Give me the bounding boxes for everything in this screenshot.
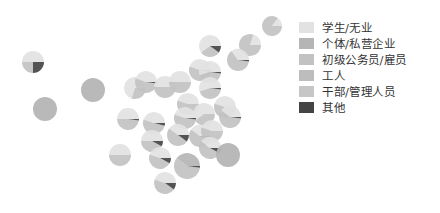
- pie-marker: [135, 71, 157, 93]
- legend-item-other: 其他: [299, 99, 407, 115]
- legend-swatch-manager: [299, 86, 314, 97]
- pie-marker: [167, 124, 189, 146]
- pie-marker: [109, 144, 131, 166]
- legend: 学生/无业 个体/私营企业 初级公务员/雇员 工人 干部/管理人员 其他: [299, 19, 407, 115]
- pie-marker: [219, 106, 241, 128]
- pie-marker: [117, 108, 139, 130]
- legend-item-student: 学生/无业: [299, 19, 407, 35]
- legend-label-other: 其他: [322, 99, 345, 115]
- legend-label-junior-clerk: 初级公务员/雇员: [322, 51, 407, 67]
- pie-marker: [227, 49, 249, 71]
- pie-map: [0, 0, 290, 213]
- pie-marker: [81, 78, 105, 102]
- pie-marker: [199, 35, 221, 57]
- legend-label-worker: 工人: [322, 67, 345, 83]
- legend-swatch-private-business: [299, 38, 314, 49]
- legend-item-worker: 工人: [299, 67, 407, 83]
- legend-item-junior-clerk: 初级公务员/雇员: [299, 51, 407, 67]
- legend-swatch-student: [299, 22, 314, 33]
- legend-swatch-worker: [299, 70, 314, 81]
- pie-marker: [154, 172, 176, 194]
- legend-label-private-business: 个体/私营企业: [322, 35, 395, 51]
- pie-marker: [199, 77, 221, 99]
- legend-swatch-junior-clerk: [299, 54, 314, 65]
- pie-marker: [22, 51, 44, 73]
- pie-marker: [262, 16, 282, 36]
- legend-label-manager: 干部/管理人员: [322, 83, 395, 99]
- pie-marker: [149, 147, 171, 169]
- pie-marker: [33, 97, 57, 121]
- legend-swatch-other: [299, 102, 314, 113]
- legend-item-private-business: 个体/私营企业: [299, 35, 407, 51]
- pie-marker: [169, 71, 191, 93]
- pie-marker: [174, 153, 200, 179]
- legend-item-manager: 干部/管理人员: [299, 83, 407, 99]
- legend-label-student: 学生/无业: [322, 19, 372, 35]
- pie-marker: [216, 143, 240, 167]
